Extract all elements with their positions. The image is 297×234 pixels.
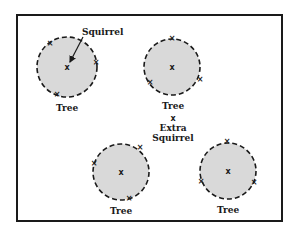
squirrel-marker: × [251,178,258,187]
tree-4-center-marker: x [225,167,231,176]
extra-squirrel-label-line1: Extra [160,123,187,133]
squirrel-marker: × [169,34,176,43]
squirrel-marker: × [126,194,133,203]
tree-3-label: Tree [110,206,133,216]
tree-4: x × × × Tree [198,137,258,215]
squirrel-marker: × [198,177,205,186]
squirrel-tree-diagram: x × × × Tree Squirrel x × × × Tree x Ext… [0,0,297,234]
extra-squirrel-marker: x [170,114,176,123]
tree-2-label: Tree [162,101,185,111]
squirrel-marker: × [147,78,154,87]
squirrel-label: Squirrel [82,27,124,37]
tree-4-label: Tree [217,205,240,215]
squirrel-marker: × [91,159,98,168]
tree-3: x × × × Tree [91,143,149,216]
tree-1: x × × × Tree [37,37,99,113]
squirrel-marker: × [137,143,144,152]
squirrel-marker: × [224,137,231,146]
tree-3-center-marker: x [118,168,124,177]
squirrel-marker: × [197,75,204,84]
tree-1-center-marker: x [64,63,70,72]
tree-2-center-marker: x [169,63,175,72]
extra-squirrel: x Extra Squirrel [152,114,194,143]
tree-2: x × × × Tree [144,34,203,111]
squirrel-marker: × [54,90,61,99]
extra-squirrel-label-line2: Squirrel [152,133,194,143]
tree-1-label: Tree [56,103,79,113]
squirrel-marker: × [47,39,54,48]
squirrel-marker: × [93,58,100,67]
